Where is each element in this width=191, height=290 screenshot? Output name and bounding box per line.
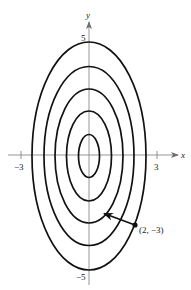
x-tick-label-3: 3: [154, 162, 159, 172]
y-tick-label-neg5: −5: [76, 272, 86, 282]
point-marker: [132, 222, 137, 227]
y-tick-label-5: 5: [81, 33, 86, 43]
x-axis-label: x: [180, 150, 185, 160]
x-tick-label-neg3: −3: [14, 162, 24, 172]
point-label: (2, −3): [139, 225, 164, 235]
contour-plot: y x 5 −5 −3 3 (2, −3): [0, 0, 191, 290]
y-axis-label: y: [85, 10, 90, 20]
